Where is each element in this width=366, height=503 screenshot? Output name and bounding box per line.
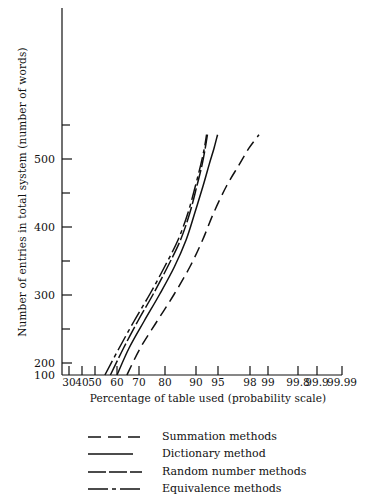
legend-swatch-dash-dot-icon: [88, 482, 144, 496]
legend-item-summation-methods: Summation methods: [88, 428, 358, 446]
x-tick-label-90: 90: [189, 377, 202, 388]
x-tick-label-99.9: 99.9: [305, 377, 328, 388]
x-tick-label-60: 60: [110, 377, 123, 388]
x-tick-label-99: 99: [261, 377, 274, 388]
x-tick-label-98: 98: [243, 377, 256, 388]
legend-item-random-number-methods: Random number methods: [88, 463, 358, 481]
x-tick-label-70: 70: [132, 377, 145, 388]
legend-label-dictionary-method: Dictionary method: [144, 448, 266, 460]
curve-dictionary-method: [117, 135, 218, 375]
x-tick-label-30: 30: [62, 377, 75, 388]
x-axis-title: Percentage of table used (probability sc…: [58, 392, 358, 404]
y-tick-marks: [62, 125, 72, 363]
legend-item-dictionary-method: Dictionary method: [88, 446, 358, 464]
x-tick-label-95: 95: [211, 377, 224, 388]
legend-item-equivalence-methods: Equivalence methods: [88, 481, 358, 499]
data-curves: [105, 135, 259, 375]
legend-label-summation-methods: Summation methods: [144, 431, 277, 443]
x-tick-label-99.99: 99.99: [327, 377, 357, 388]
legend-swatch-solid-icon: [88, 447, 144, 461]
x-tick-marks: [69, 366, 342, 375]
x-tick-label-50: 50: [88, 377, 101, 388]
x-tick-label-80: 80: [158, 377, 171, 388]
curve-equivalence-methods: [105, 135, 207, 375]
legend-label-equivalence-methods: Equivalence methods: [144, 483, 281, 495]
y-tick-label-100: 100: [25, 369, 55, 382]
legend: Summation methods Dictionary method Rand…: [88, 428, 358, 498]
legend-label-random-number-methods: Random number methods: [144, 466, 306, 478]
curve-summation-methods: [127, 135, 259, 375]
legend-swatch-long-dash-icon: [88, 465, 144, 479]
legend-swatch-dashed-icon: [88, 430, 144, 444]
figure: Number of entries in total system (numbe…: [0, 0, 366, 503]
x-tick-label-40: 40: [75, 377, 88, 388]
